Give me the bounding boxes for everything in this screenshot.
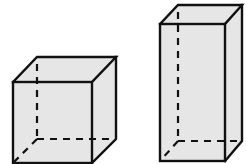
diagram-canvas [0, 0, 246, 164]
prism-fill [160, 5, 242, 161]
cube [13, 57, 116, 163]
tall-rectangular-prism [160, 5, 242, 161]
